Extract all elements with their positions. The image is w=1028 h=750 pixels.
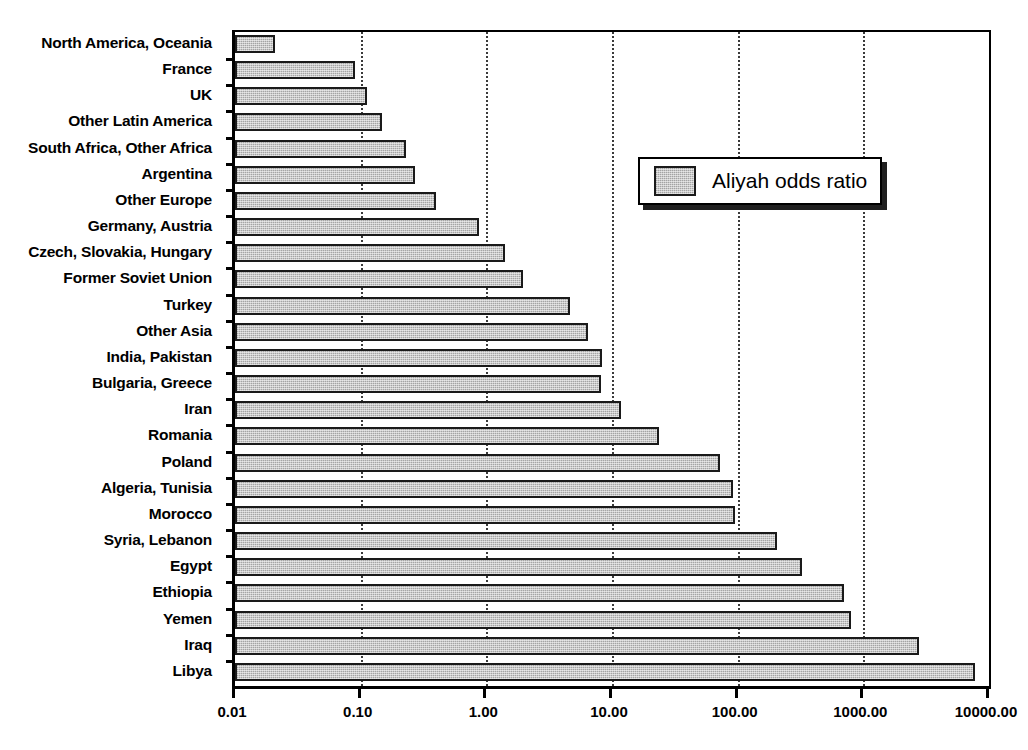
category-tick xyxy=(226,424,235,427)
category-label: North America, Oceania xyxy=(41,30,212,56)
chart-legend: Aliyah odds ratio xyxy=(638,157,882,205)
legend-label: Aliyah odds ratio xyxy=(712,169,867,193)
bar xyxy=(235,35,275,53)
category-tick xyxy=(226,634,235,637)
category-tick xyxy=(226,110,235,113)
value-tick-label: 1000.00 xyxy=(833,703,887,720)
value-tick xyxy=(609,687,612,698)
category-label: Other Asia xyxy=(136,318,212,344)
bar-series xyxy=(235,32,989,686)
bar xyxy=(235,166,415,184)
category-tick xyxy=(226,451,235,454)
bar xyxy=(235,637,919,655)
category-label: Other Latin America xyxy=(68,108,212,134)
bar xyxy=(235,192,436,210)
bar xyxy=(235,349,602,367)
value-tick xyxy=(232,687,235,698)
category-tick xyxy=(226,477,235,480)
category-label: UK xyxy=(190,82,212,108)
value-tick-label: 10.00 xyxy=(590,703,628,720)
category-label: India, Pakistan xyxy=(106,344,212,370)
value-tick xyxy=(358,687,361,698)
value-tick-label: 10000.00 xyxy=(955,703,1018,720)
category-tick xyxy=(226,608,235,611)
bar xyxy=(235,454,720,472)
category-label: South Africa, Other Africa xyxy=(28,135,212,161)
bar xyxy=(235,611,851,629)
bar xyxy=(235,401,621,419)
legend-swatch-aliyah-odds-ratio xyxy=(654,166,696,196)
category-label: Iran xyxy=(184,396,212,422)
bar xyxy=(235,558,802,576)
category-label: Former Soviet Union xyxy=(63,265,212,291)
bar xyxy=(235,244,505,262)
category-tick xyxy=(226,84,235,87)
category-label: Germany, Austria xyxy=(88,213,212,239)
category-tick xyxy=(226,241,235,244)
category-tick xyxy=(226,660,235,663)
category-tick xyxy=(226,189,235,192)
category-label: Algeria, Tunisia xyxy=(101,475,212,501)
value-tick-label: 1.00 xyxy=(469,703,498,720)
category-label: Egypt xyxy=(170,553,212,579)
category-label: Argentina xyxy=(141,161,212,187)
category-tick xyxy=(226,346,235,349)
category-tick xyxy=(226,372,235,375)
bar xyxy=(235,270,523,288)
value-tick-label: 0.01 xyxy=(217,703,246,720)
value-tick-label: 0.10 xyxy=(343,703,372,720)
value-tick xyxy=(986,687,989,698)
category-tick xyxy=(226,267,235,270)
category-label: Yemen xyxy=(163,606,212,632)
bar xyxy=(235,663,975,681)
category-label: Libya xyxy=(173,658,212,684)
category-tick xyxy=(226,163,235,166)
category-tick xyxy=(226,555,235,558)
category-label: France xyxy=(162,56,212,82)
value-axis: 0.010.101.0010.00100.001000.0010000.00 xyxy=(232,687,986,727)
bar xyxy=(235,427,659,445)
category-label: Romania xyxy=(148,422,212,448)
value-tick xyxy=(860,687,863,698)
value-tick-label: 100.00 xyxy=(712,703,758,720)
bar xyxy=(235,113,382,131)
category-label: Ethiopia xyxy=(152,579,212,605)
bar xyxy=(235,532,777,550)
category-tick xyxy=(226,529,235,532)
category-label: Czech, Slovakia, Hungary xyxy=(28,239,212,265)
category-tick xyxy=(226,503,235,506)
category-tick xyxy=(226,215,235,218)
bar xyxy=(235,297,570,315)
category-label: Iraq xyxy=(184,632,212,658)
category-label: Turkey xyxy=(164,292,212,318)
category-tick xyxy=(226,320,235,323)
bar xyxy=(235,323,588,341)
bar xyxy=(235,87,367,105)
bar xyxy=(235,218,479,236)
bar xyxy=(235,506,735,524)
chart-page: North America, OceaniaFranceUKOther Lati… xyxy=(0,0,1028,750)
category-label: Morocco xyxy=(149,501,212,527)
category-axis-labels: North America, OceaniaFranceUKOther Lati… xyxy=(0,30,222,684)
category-label: Poland xyxy=(162,449,212,475)
bar xyxy=(235,480,733,498)
value-tick xyxy=(735,687,738,698)
category-label: Bulgaria, Greece xyxy=(92,370,212,396)
category-tick xyxy=(226,294,235,297)
bar xyxy=(235,140,406,158)
value-tick xyxy=(483,687,486,698)
category-tick xyxy=(226,581,235,584)
category-label: Syria, Lebanon xyxy=(104,527,212,553)
category-label: Other Europe xyxy=(115,187,212,213)
bar xyxy=(235,375,601,393)
plot-area xyxy=(232,30,991,689)
category-tick xyxy=(226,137,235,140)
bar xyxy=(235,584,844,602)
bar xyxy=(235,61,355,79)
category-tick xyxy=(226,58,235,61)
category-tick xyxy=(226,398,235,401)
